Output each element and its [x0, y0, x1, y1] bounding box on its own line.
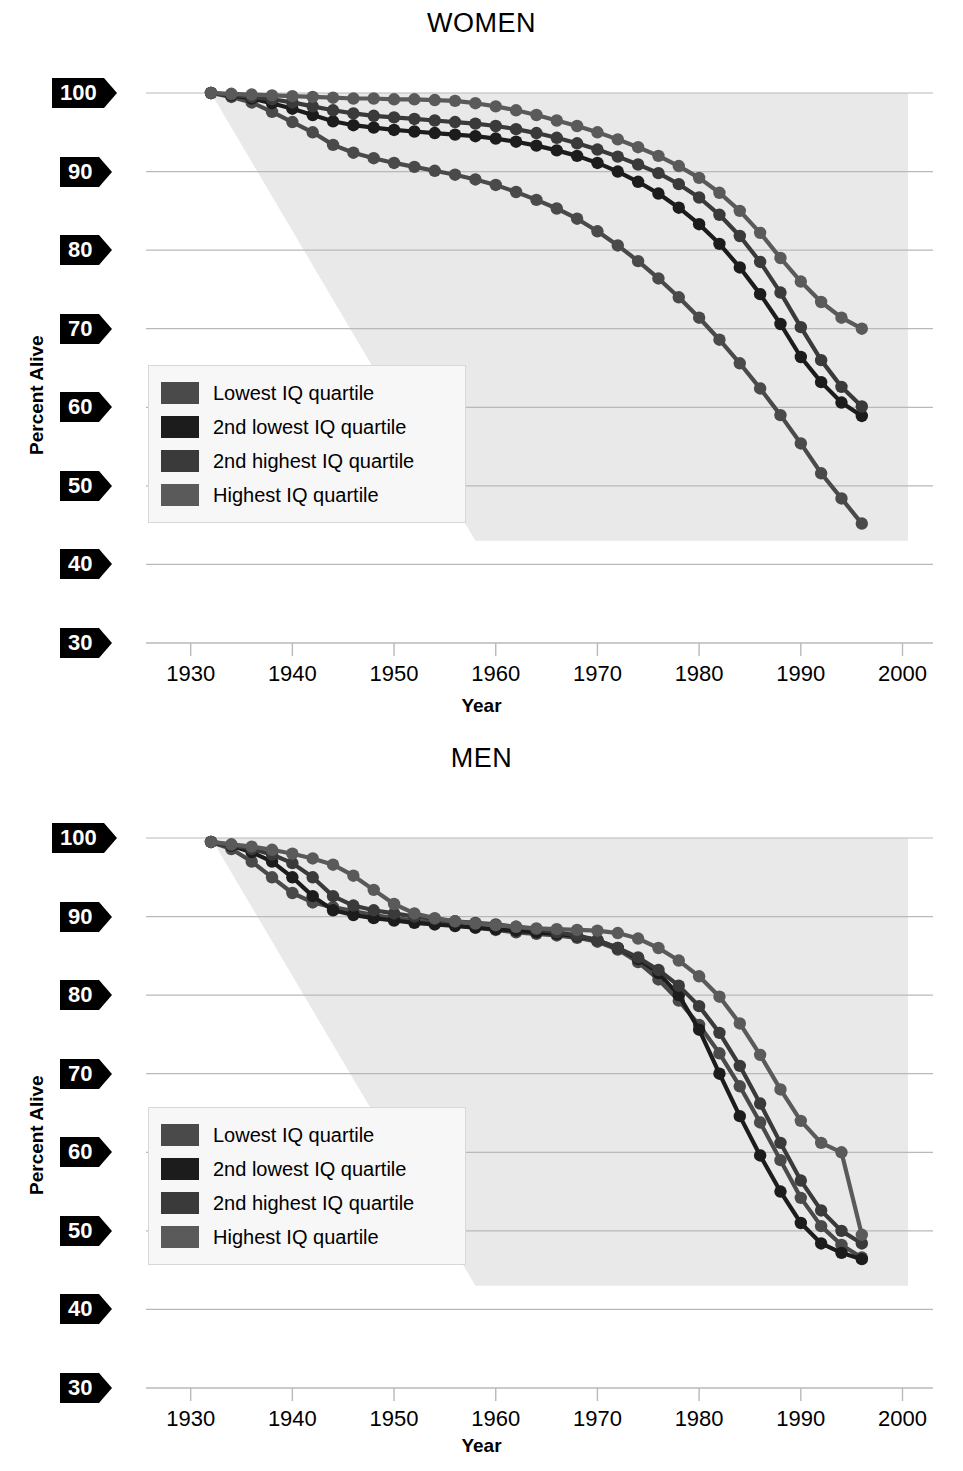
- data-point: [734, 1017, 746, 1029]
- legend-label: 2nd highest IQ quartile: [213, 450, 414, 473]
- y-axis-tag-arrow-icon: [99, 902, 112, 932]
- legend-swatch-second_highest: [161, 450, 199, 472]
- data-point: [754, 1149, 766, 1161]
- data-point: [530, 194, 542, 206]
- data-point: [388, 898, 400, 910]
- panel-women: WOMEN 10090807060504030 1930194019501960…: [0, 0, 963, 735]
- data-point: [571, 137, 583, 149]
- legend-item-highest[interactable]: Highest IQ quartile: [161, 478, 451, 512]
- data-point: [591, 225, 603, 237]
- data-point: [205, 87, 217, 99]
- legend-item-second_highest[interactable]: 2nd highest IQ quartile: [161, 1186, 451, 1220]
- legend-label: 2nd lowest IQ quartile: [213, 1158, 406, 1181]
- y-axis-tag-50: 50: [60, 1216, 112, 1246]
- y-axis-tag-label: 60: [60, 1137, 99, 1167]
- data-point: [795, 321, 807, 333]
- data-point: [815, 376, 827, 388]
- data-point: [286, 90, 298, 102]
- y-axis-tag-30: 30: [60, 628, 112, 658]
- data-point: [673, 954, 685, 966]
- data-point: [754, 256, 766, 268]
- y-axis-tag-arrow-icon: [99, 628, 112, 658]
- y-axis-tag-100: 100: [52, 823, 117, 853]
- data-point: [652, 964, 664, 976]
- legend-women: Lowest IQ quartile2nd lowest IQ quartile…: [148, 365, 466, 523]
- data-point: [266, 871, 278, 883]
- data-point: [591, 143, 603, 155]
- data-point: [673, 980, 685, 992]
- data-point: [856, 1253, 868, 1265]
- legend-swatch-second_highest: [161, 1192, 199, 1214]
- y-axis-tag-arrow-icon: [99, 1137, 112, 1167]
- data-point: [734, 1110, 746, 1122]
- data-point: [815, 354, 827, 366]
- data-point: [347, 92, 359, 104]
- data-point: [591, 126, 603, 138]
- y-axis-tag-arrow-icon: [104, 78, 117, 108]
- x-axis-label-1980: 1980: [654, 1406, 744, 1432]
- x-axis-label-1960: 1960: [451, 1406, 541, 1432]
- data-point: [774, 1137, 786, 1149]
- x-axis-label-1930: 1930: [146, 1406, 236, 1432]
- data-point: [469, 117, 481, 129]
- legend-item-second_lowest[interactable]: 2nd lowest IQ quartile: [161, 1152, 451, 1186]
- data-point: [286, 887, 298, 899]
- data-point: [815, 1220, 827, 1232]
- data-point: [795, 275, 807, 287]
- legend-label: Lowest IQ quartile: [213, 382, 374, 405]
- y-axis-tag-arrow-icon: [99, 549, 112, 579]
- y-axis-title-men: Percent Alive: [26, 1075, 48, 1195]
- legend-item-highest[interactable]: Highest IQ quartile: [161, 1220, 451, 1254]
- data-point: [673, 160, 685, 172]
- data-point: [327, 904, 339, 916]
- y-axis-tag-arrow-icon: [99, 1059, 112, 1089]
- data-point: [388, 93, 400, 105]
- data-point: [693, 172, 705, 184]
- data-point: [368, 152, 380, 164]
- legend-item-lowest[interactable]: Lowest IQ quartile: [161, 376, 451, 410]
- legend-men: Lowest IQ quartile2nd lowest IQ quartile…: [148, 1107, 466, 1265]
- data-point: [388, 124, 400, 136]
- data-point: [245, 840, 257, 852]
- legend-item-second_lowest[interactable]: 2nd lowest IQ quartile: [161, 410, 451, 444]
- y-axis-tag-arrow-icon: [99, 1373, 112, 1403]
- data-point: [510, 104, 522, 116]
- data-point: [693, 970, 705, 982]
- data-point: [307, 890, 319, 902]
- data-point: [490, 919, 502, 931]
- y-axis-tag-label: 40: [60, 549, 99, 579]
- data-point: [795, 1115, 807, 1127]
- x-axis-label-1960: 1960: [451, 661, 541, 687]
- data-point: [347, 107, 359, 119]
- data-point: [307, 126, 319, 138]
- legend-item-second_highest[interactable]: 2nd highest IQ quartile: [161, 444, 451, 478]
- data-point: [835, 1146, 847, 1158]
- data-point: [510, 186, 522, 198]
- legend-item-lowest[interactable]: Lowest IQ quartile: [161, 1118, 451, 1152]
- data-point: [612, 239, 624, 251]
- data-point: [347, 899, 359, 911]
- data-point: [835, 1225, 847, 1237]
- data-point: [571, 120, 583, 132]
- y-axis-tag-arrow-icon: [99, 980, 112, 1010]
- x-axis-label-1990: 1990: [756, 661, 846, 687]
- data-point: [652, 150, 664, 162]
- data-point: [612, 927, 624, 939]
- data-point: [693, 191, 705, 203]
- data-point: [835, 312, 847, 324]
- y-axis-tag-label: 40: [60, 1294, 99, 1324]
- legend-swatch-lowest: [161, 1124, 199, 1146]
- data-point: [652, 942, 664, 954]
- x-axis-title-men: Year: [0, 1435, 963, 1457]
- data-point: [591, 157, 603, 169]
- plot-area-men: [0, 735, 963, 1470]
- data-point: [408, 125, 420, 137]
- data-point: [408, 161, 420, 173]
- y-axis-tag-arrow-icon: [99, 1216, 112, 1246]
- data-point: [429, 912, 441, 924]
- data-point: [327, 104, 339, 116]
- y-axis-tag-label: 100: [52, 823, 104, 853]
- data-point: [795, 1217, 807, 1229]
- y-axis-tag-label: 100: [52, 78, 104, 108]
- y-axis-tag-90: 90: [60, 157, 112, 187]
